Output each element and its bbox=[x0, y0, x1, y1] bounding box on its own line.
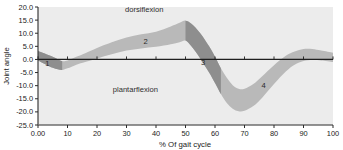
y-tick-label: 5.0 bbox=[23, 42, 33, 51]
chart-canvas: 20.015.010.05.00.0-5.0-10.0-15.0-20.0-25… bbox=[0, 0, 343, 150]
x-tick-label: 70 bbox=[240, 129, 248, 138]
annotation-dorsiflexion: dorsiflexion bbox=[125, 5, 163, 14]
x-axis-title: % Of gait cycle bbox=[159, 140, 211, 149]
x-tick-label: 90 bbox=[299, 129, 307, 138]
x-tick-label: 80 bbox=[270, 129, 278, 138]
y-tick-label: -20.0 bbox=[16, 107, 33, 116]
y-axis-title: Joint angle bbox=[2, 47, 11, 85]
x-tick-label: 40 bbox=[152, 129, 160, 138]
y-tick-label: -10.0 bbox=[16, 81, 33, 90]
y-tick-label: 0.0 bbox=[23, 55, 33, 64]
y-tick-label: -5.0 bbox=[20, 68, 33, 77]
x-tick-label: 60 bbox=[211, 129, 219, 138]
phase-label-3: 3 bbox=[201, 58, 205, 67]
x-axis-tick-labels: 0.00102030405060708090100 bbox=[31, 129, 339, 138]
y-tick-label: 20.0 bbox=[19, 3, 33, 12]
phase-label-1: 1 bbox=[45, 59, 49, 68]
y-tick-label: -15.0 bbox=[16, 94, 33, 103]
y-tick-label: 15.0 bbox=[19, 16, 33, 25]
phase-label-2: 2 bbox=[144, 37, 148, 46]
annotation-plantarflexion: plantarflexion bbox=[113, 85, 158, 94]
phase-label-4: 4 bbox=[262, 81, 266, 90]
x-tick-label: 100 bbox=[327, 129, 339, 138]
x-tick-label: 50 bbox=[181, 129, 189, 138]
x-tick-label: 30 bbox=[122, 129, 130, 138]
x-tick-label: 0.00 bbox=[31, 129, 45, 138]
y-axis-tick-labels: 20.015.010.05.00.0-5.0-10.0-15.0-20.0-25… bbox=[16, 3, 33, 130]
y-tick-label: 10.0 bbox=[19, 29, 33, 38]
gait-cycle-ankle-angle-chart: 20.015.010.05.00.0-5.0-10.0-15.0-20.0-25… bbox=[0, 0, 343, 150]
x-tick-label: 10 bbox=[63, 129, 71, 138]
x-tick-label: 20 bbox=[93, 129, 101, 138]
